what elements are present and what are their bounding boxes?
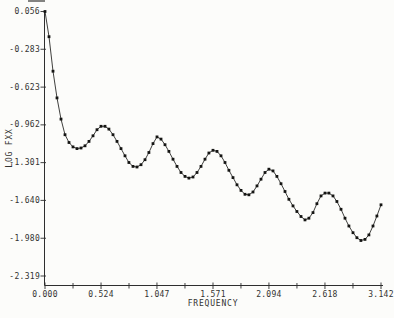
data-point xyxy=(236,183,239,186)
data-point xyxy=(60,118,63,121)
data-point xyxy=(244,193,247,196)
data-point xyxy=(80,147,83,150)
data-point xyxy=(184,175,187,178)
data-point xyxy=(212,149,215,152)
plot-canvas: 0.056-0.283-0.623-0.962-1.301-1.640-1.98… xyxy=(0,0,394,318)
data-point xyxy=(300,215,303,218)
data-series xyxy=(44,10,383,242)
x-tick-label: 0.524 xyxy=(88,290,114,299)
data-point xyxy=(220,154,223,157)
x-tick-label: 0.000 xyxy=(32,290,58,299)
data-point xyxy=(104,125,107,128)
data-point xyxy=(272,170,275,173)
data-point xyxy=(188,177,191,180)
data-point xyxy=(100,125,103,128)
data-point xyxy=(232,176,235,179)
data-point xyxy=(120,147,123,150)
data-point xyxy=(332,195,335,198)
x-tick-label: 1.047 xyxy=(144,290,170,299)
data-point xyxy=(228,169,231,172)
data-point xyxy=(44,10,47,13)
x-tick-label: 3.142 xyxy=(368,290,394,299)
data-point xyxy=(84,144,87,147)
data-point xyxy=(124,154,127,157)
data-point xyxy=(368,234,371,237)
data-point xyxy=(364,238,367,241)
data-point xyxy=(56,97,59,100)
data-point xyxy=(360,239,363,242)
data-point xyxy=(148,151,151,154)
data-point xyxy=(280,182,283,185)
data-point xyxy=(192,176,195,179)
data-point xyxy=(252,191,255,194)
data-point xyxy=(348,225,351,228)
data-point xyxy=(160,138,163,141)
y-tick-label: -2.319 xyxy=(9,272,40,281)
x-tick-label: 2.618 xyxy=(312,290,338,299)
data-point xyxy=(268,168,271,171)
series-line xyxy=(45,12,381,241)
y-tick-label: -1.640 xyxy=(9,196,40,205)
y-axis-title: LOG FXX xyxy=(5,128,14,167)
data-point xyxy=(108,128,111,131)
data-point xyxy=(88,140,91,143)
data-point xyxy=(316,202,319,205)
data-point xyxy=(196,171,199,174)
data-point xyxy=(224,161,227,164)
data-point xyxy=(92,134,95,137)
data-point xyxy=(336,200,339,203)
data-point xyxy=(68,141,71,144)
data-point xyxy=(256,185,259,188)
data-point xyxy=(112,133,115,136)
data-point xyxy=(180,171,183,174)
data-point xyxy=(284,190,287,193)
data-point xyxy=(152,142,155,145)
data-point xyxy=(200,165,203,168)
data-point xyxy=(324,192,327,195)
data-point xyxy=(164,143,167,146)
data-point xyxy=(240,189,243,192)
x-axis-ticks: 0.0000.5241.0471.5712.0942.6183.142 xyxy=(32,283,394,300)
data-point xyxy=(304,219,307,222)
data-point xyxy=(308,217,311,220)
data-point xyxy=(96,128,99,131)
data-point xyxy=(176,165,179,168)
data-point xyxy=(288,198,291,201)
data-point xyxy=(312,211,315,214)
data-point xyxy=(144,158,147,161)
data-point xyxy=(172,158,175,161)
data-point xyxy=(248,193,251,196)
y-tick-label: -0.283 xyxy=(9,45,40,54)
data-point xyxy=(328,192,331,195)
data-point xyxy=(344,217,347,220)
data-point xyxy=(140,163,143,166)
data-point xyxy=(64,133,67,136)
data-point xyxy=(380,203,383,206)
data-point xyxy=(372,225,375,228)
y-tick-label: 0.056 xyxy=(14,7,40,16)
data-point xyxy=(320,195,323,198)
data-point xyxy=(132,165,135,168)
data-point xyxy=(48,35,51,38)
data-point xyxy=(376,215,379,218)
y-tick-label: -1.980 xyxy=(9,234,40,243)
data-point xyxy=(136,166,139,169)
y-tick-label: -0.623 xyxy=(9,83,40,92)
data-point xyxy=(52,70,55,73)
data-point xyxy=(292,205,295,208)
data-point xyxy=(116,140,119,143)
data-point xyxy=(356,236,359,239)
data-point xyxy=(168,150,171,153)
data-point xyxy=(340,208,343,211)
data-point xyxy=(76,147,79,150)
x-axis-title: FREQUENCY xyxy=(188,299,239,308)
data-point xyxy=(216,150,219,153)
data-point xyxy=(204,158,207,161)
spectral-density-figure: 0.056-0.283-0.623-0.962-1.301-1.640-1.98… xyxy=(0,0,394,318)
data-point xyxy=(128,161,131,164)
data-point xyxy=(260,178,263,181)
data-point xyxy=(264,171,267,174)
y-tick-label: -0.962 xyxy=(9,120,40,129)
data-point xyxy=(352,231,355,234)
data-point xyxy=(276,175,279,178)
